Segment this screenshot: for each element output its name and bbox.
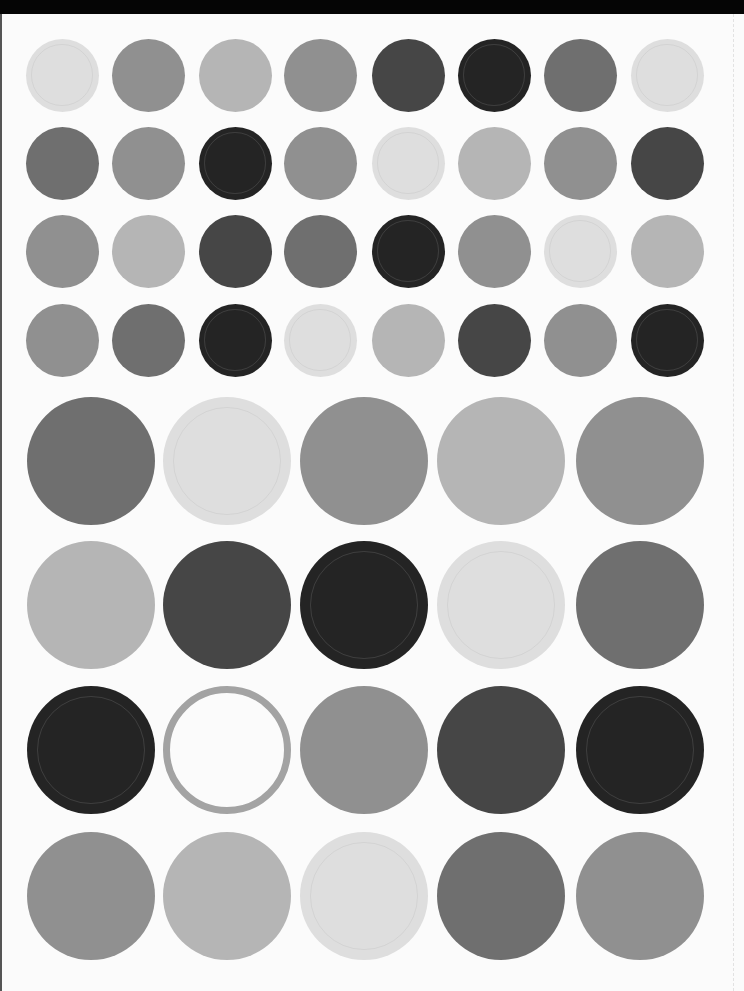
small-dot-sticker [631, 127, 704, 200]
large-dot-sticker [576, 832, 704, 960]
large-dot-sticker [437, 686, 565, 814]
small-dot-sticker [458, 127, 531, 200]
small-dot-sticker [544, 39, 617, 112]
small-dot-sticker [284, 215, 357, 288]
large-dot-sticker [437, 541, 565, 669]
small-dot-sticker [26, 215, 99, 288]
large-dot-sticker [437, 832, 565, 960]
large-dot-sticker [300, 832, 428, 960]
left-edge-border [0, 14, 2, 991]
small-dot-sticker [631, 39, 704, 112]
large-dot-sticker [27, 397, 155, 525]
small-dot-sticker [372, 39, 445, 112]
small-dot-sticker [284, 304, 357, 377]
small-dot-sticker [26, 304, 99, 377]
large-dot-sticker [300, 541, 428, 669]
large-dot-sticker [163, 832, 291, 960]
large-dot-sticker [27, 541, 155, 669]
large-dot-sticker [163, 541, 291, 669]
small-dot-sticker [631, 304, 704, 377]
large-dot-sticker [576, 541, 704, 669]
large-dot-sticker [576, 686, 704, 814]
small-dot-sticker [112, 127, 185, 200]
large-dot-sticker [163, 397, 291, 525]
small-dot-sticker [26, 127, 99, 200]
small-dot-sticker [199, 127, 272, 200]
small-dot-sticker [631, 215, 704, 288]
small-dot-sticker [544, 215, 617, 288]
small-dot-sticker [372, 127, 445, 200]
small-dot-sticker [458, 215, 531, 288]
large-dot-sticker [437, 397, 565, 525]
small-dot-sticker [458, 304, 531, 377]
large-dot-sticker [27, 686, 155, 814]
small-dot-sticker [112, 304, 185, 377]
small-dot-sticker [112, 39, 185, 112]
large-dot-sticker [27, 832, 155, 960]
small-dot-sticker [284, 39, 357, 112]
large-dot-sticker [300, 686, 428, 814]
perforation-line [733, 14, 734, 991]
small-dot-sticker [199, 39, 272, 112]
small-dot-sticker [544, 304, 617, 377]
small-dot-sticker [199, 304, 272, 377]
small-dot-sticker [458, 39, 531, 112]
small-dot-sticker [26, 39, 99, 112]
small-dot-sticker [112, 215, 185, 288]
small-dot-sticker [199, 215, 272, 288]
ring-sticker [163, 686, 291, 814]
small-dot-sticker [284, 127, 357, 200]
small-dot-sticker [544, 127, 617, 200]
small-dot-sticker [372, 304, 445, 377]
small-dot-sticker [372, 215, 445, 288]
large-dot-sticker [300, 397, 428, 525]
large-dot-sticker [576, 397, 704, 525]
top-dark-border [0, 0, 744, 14]
